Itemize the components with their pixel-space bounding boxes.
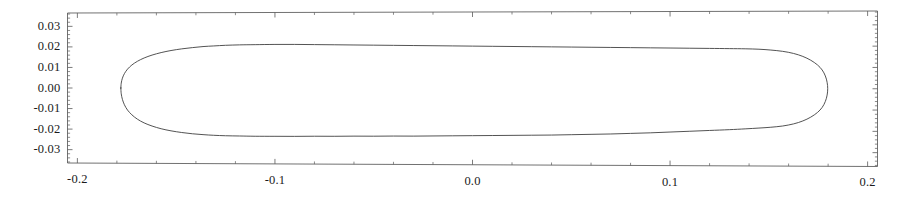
x-tick-label: -0.2 [47, 172, 107, 187]
chart-figure: -0.03-0.02-0.010.000.010.020.03 -0.2-0.1… [0, 0, 906, 198]
y-tick-label: 0.01 [38, 60, 61, 75]
data-series-group [121, 44, 828, 136]
plot-frame [68, 11, 878, 167]
y-tick-label: -0.01 [33, 101, 60, 116]
y-tick-label: 0.03 [38, 19, 61, 34]
x-tick-label: 0.0 [443, 174, 503, 189]
y-tick-label: 0.00 [38, 81, 61, 96]
x-tick-label: -0.1 [245, 173, 305, 188]
x-tick-label: 0.2 [838, 175, 898, 190]
y-tick-label: -0.03 [33, 142, 60, 157]
y-tick-label: -0.02 [33, 122, 60, 137]
x-tick-label: 0.1 [640, 175, 700, 190]
y-tick-label: 0.02 [38, 39, 61, 54]
plot-canvas [0, 0, 906, 198]
axis-ticks [68, 11, 878, 166]
contour-curve [121, 44, 828, 136]
